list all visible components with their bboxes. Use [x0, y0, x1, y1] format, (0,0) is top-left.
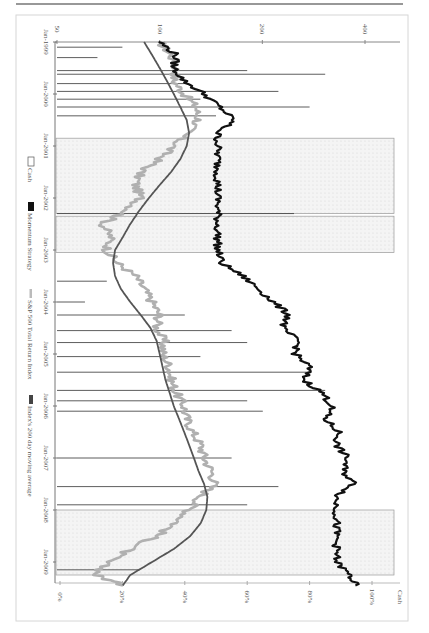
legend-label: S&P 500 Total Return Index	[26, 300, 34, 380]
legend-swatch	[30, 289, 33, 298]
legend-label: Index's 200 day moving average	[26, 406, 34, 497]
cash-region	[56, 138, 394, 213]
date-tick-label: Jan-2003	[42, 237, 50, 263]
s-p-500-total-return-index-line	[93, 42, 218, 585]
date-tick-label: Jan-2004	[42, 289, 50, 315]
date-tick-label: Jan-2007	[42, 445, 50, 471]
percent-tick-label: Cash	[396, 590, 404, 605]
percent-tick-label: 40%	[181, 591, 189, 604]
date-tick-label: Jan-2000	[42, 81, 50, 107]
legend-item: Cash	[26, 157, 34, 183]
series-group	[93, 42, 358, 585]
value-tick-label: 400	[361, 24, 369, 35]
legend-label: Momentum Strategy	[26, 213, 34, 271]
momentum-chart: 501002004000%20%40%60%80%100%CashJan-199…	[0, 0, 429, 633]
percent-tick-label: 0%	[56, 592, 64, 602]
legend: CashMomentum StrategyS&P 500 Total Retur…	[26, 157, 34, 497]
legend-label: Cash	[26, 168, 34, 183]
legend-swatch	[28, 202, 34, 211]
legend-swatch	[28, 157, 34, 166]
value-tick-label: 100	[156, 24, 164, 35]
date-tick-label: Jan-1999	[42, 29, 50, 55]
legend-item: S&P 500 Total Return Index	[26, 289, 34, 380]
date-tick-label: Jan-2005	[42, 341, 50, 367]
momentum-strategy-line	[159, 42, 359, 585]
percent-tick-label: 20%	[118, 591, 126, 604]
date-tick-label: Jan-2002	[42, 185, 50, 211]
date-tick-label: Jan-2001	[42, 133, 50, 159]
value-tick-label: 200	[258, 24, 266, 35]
legend-swatch	[29, 395, 33, 404]
percent-tick-label: 80%	[306, 591, 314, 604]
percent-tick-label: 60%	[243, 591, 251, 604]
value-tick-label: 50	[53, 26, 61, 34]
chart-canvas: 501002004000%20%40%60%80%100%CashJan-199…	[0, 0, 429, 633]
date-tick-label: Jan-2009	[42, 549, 50, 575]
date-tick-label: Jan-2006	[42, 393, 50, 419]
legend-item: Momentum Strategy	[26, 202, 34, 271]
date-tick-label: Jan-2008	[42, 497, 50, 523]
percent-tick-label: 100%	[368, 589, 376, 606]
legend-item: Index's 200 day moving average	[26, 395, 34, 497]
